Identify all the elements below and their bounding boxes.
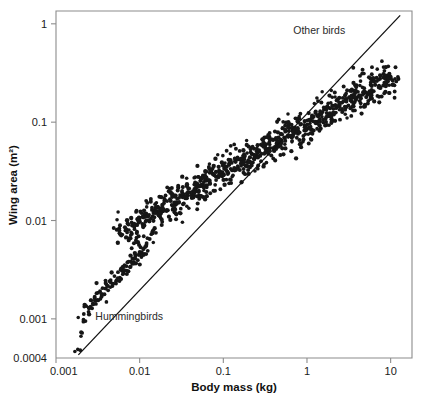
data-point [275, 136, 279, 140]
data-point [124, 235, 128, 239]
data-point [295, 117, 299, 121]
data-point [76, 348, 80, 352]
data-point [186, 190, 190, 194]
data-point [164, 209, 168, 213]
y-tick-label: 0.1 [32, 116, 47, 128]
data-point [179, 207, 183, 211]
data-point [283, 139, 287, 143]
data-point [256, 155, 260, 159]
data-point [203, 174, 207, 178]
data-point [197, 190, 201, 194]
data-point [297, 138, 301, 142]
data-point [150, 231, 154, 235]
data-point [379, 74, 383, 78]
data-point [170, 194, 174, 198]
data-point [129, 233, 133, 237]
data-point [322, 105, 326, 109]
data-point [265, 161, 269, 165]
data-point [148, 237, 152, 241]
data-point [154, 205, 158, 209]
data-point [261, 164, 265, 168]
y-tick-label: 1 [41, 18, 47, 30]
data-point [173, 207, 177, 211]
x-tick-label: 0.01 [129, 365, 150, 377]
data-point [126, 221, 130, 225]
data-point [371, 76, 375, 80]
data-point [119, 277, 123, 281]
data-point [221, 163, 225, 167]
data-point [345, 88, 349, 92]
data-point [337, 96, 341, 100]
data-point [116, 210, 120, 214]
x-tick-label: 0.1 [216, 365, 231, 377]
data-point [199, 194, 203, 198]
data-point [208, 191, 212, 195]
data-point [176, 185, 180, 189]
data-point [204, 184, 208, 188]
data-point [377, 100, 381, 104]
figure-container: 0.0010.010.1110 10.10.010.0010.0004 Othe… [0, 0, 430, 402]
data-point [212, 173, 216, 177]
data-point [344, 100, 348, 104]
data-point [311, 128, 315, 132]
data-point [316, 114, 320, 118]
data-point [185, 176, 189, 180]
data-point [227, 171, 231, 175]
data-point [187, 206, 191, 210]
data-point [137, 215, 141, 219]
x-tick-label: 0.001 [50, 365, 78, 377]
data-point [82, 312, 86, 316]
data-point [138, 262, 142, 266]
data-point [180, 189, 184, 193]
data-point [133, 227, 137, 231]
data-point [286, 120, 290, 124]
data-point [113, 274, 117, 278]
data-point [280, 146, 284, 150]
data-point [79, 334, 83, 338]
data-point [318, 118, 322, 122]
data-point [160, 223, 164, 227]
data-point [227, 163, 231, 167]
scatter-plot: 0.0010.010.1110 10.10.010.0010.0004 Othe… [0, 0, 430, 402]
data-point [136, 219, 140, 223]
data-point [248, 155, 252, 159]
data-point [251, 145, 255, 149]
data-point [229, 152, 233, 156]
data-point [298, 142, 302, 146]
data-point [320, 115, 324, 119]
data-point [160, 220, 164, 224]
data-point [229, 159, 233, 163]
data-point [169, 199, 173, 203]
data-point [229, 181, 233, 185]
data-point [290, 139, 294, 143]
data-point [314, 109, 318, 113]
data-point [145, 205, 149, 209]
data-point [362, 72, 366, 76]
data-point [383, 90, 387, 94]
data-point [177, 200, 181, 204]
data-point [195, 207, 199, 211]
data-point [182, 202, 186, 206]
data-point [377, 95, 381, 99]
data-point [318, 109, 322, 113]
data-point [383, 69, 387, 73]
data-point [394, 65, 398, 69]
data-point [133, 256, 137, 260]
data-point [144, 220, 148, 224]
data-point [195, 164, 199, 168]
data-point [181, 185, 185, 189]
y-axis-ticks: 10.10.010.0010.0004 [13, 18, 56, 364]
data-point [94, 281, 98, 285]
data-point [243, 154, 247, 158]
data-point [369, 80, 373, 84]
data-point [145, 252, 149, 256]
data-point [303, 119, 307, 123]
data-point [277, 118, 281, 122]
data-point [130, 261, 134, 265]
data-point [112, 226, 116, 230]
data-point [334, 106, 338, 110]
data-point [218, 187, 222, 191]
data-point [213, 183, 217, 187]
data-point [266, 142, 270, 146]
data-point [192, 191, 196, 195]
